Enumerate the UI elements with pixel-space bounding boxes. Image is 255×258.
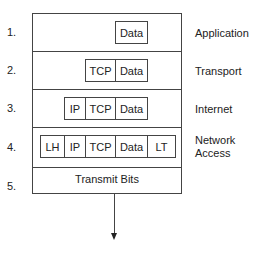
row-number-1: 1. <box>7 26 21 38</box>
row-number-5: 5. <box>7 180 21 192</box>
ip-header-cell: IP <box>64 97 86 120</box>
data-cell: Data <box>115 135 148 158</box>
transmission-arrow-line <box>114 194 115 234</box>
layer-label-line-2: Access <box>195 147 235 160</box>
layer-label-line-1: Network <box>195 134 235 147</box>
layer-label-application: Application <box>195 27 249 40</box>
row-divider-3 <box>32 127 182 128</box>
row-number-4: 4. <box>7 141 21 153</box>
transmit-bits-label: Transmit Bits <box>32 173 182 185</box>
tcp-header-cell: TCP <box>85 135 116 158</box>
row-divider-4 <box>32 167 182 168</box>
row-divider-1 <box>32 51 182 52</box>
layer-label-network-access: Network Access <box>195 134 235 160</box>
ip-header-cell: IP <box>64 135 86 158</box>
link-trailer-cell: LT <box>147 135 176 158</box>
data-cell: Data <box>115 59 148 82</box>
tcp-header-cell: TCP <box>85 59 116 82</box>
layer-label-internet: Internet <box>195 103 232 116</box>
row-number-2: 2. <box>7 64 21 76</box>
arrow-down-icon <box>111 233 117 240</box>
data-cell: Data <box>115 21 148 44</box>
tcp-header-cell: TCP <box>85 97 116 120</box>
row-number-3: 3. <box>7 102 21 114</box>
link-header-cell: LH <box>40 135 65 158</box>
row-divider-2 <box>32 89 182 90</box>
data-cell: Data <box>115 97 148 120</box>
layer-label-transport: Transport <box>195 65 242 78</box>
